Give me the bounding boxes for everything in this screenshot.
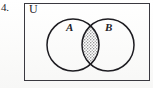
set-b-label: B [105,21,112,33]
diagram-canvas [0,0,153,88]
venn-diagram-figure: 4. U A B [0,0,153,88]
set-a-label: A [66,21,73,33]
universal-set-label: U [29,3,38,16]
